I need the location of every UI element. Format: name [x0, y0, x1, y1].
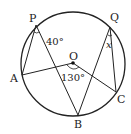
circle-diagram: P Q A B C O 40° 130° x	[0, 0, 131, 134]
segment-QC	[110, 27, 116, 92]
angle-label-O: 130°	[61, 72, 85, 83]
label-B: B	[74, 118, 82, 131]
label-Q: Q	[110, 11, 119, 24]
segment-PA	[22, 25, 36, 75]
angle-arc-P	[34, 32, 39, 33]
label-A: A	[9, 72, 19, 85]
label-P: P	[29, 12, 37, 25]
label-O: O	[69, 50, 78, 63]
label-C: C	[117, 93, 125, 106]
angle-arc-Q	[108, 35, 112, 36]
angle-label-Q: x	[106, 39, 112, 50]
angle-label-P: 40°	[46, 36, 64, 47]
